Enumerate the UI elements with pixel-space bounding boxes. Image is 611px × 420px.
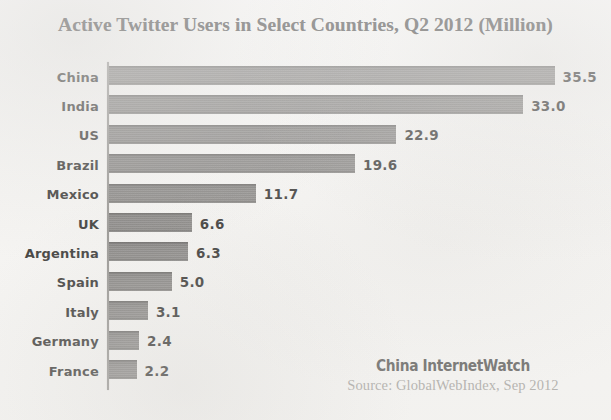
category-label: France [0,363,99,378]
bar-value-label: 19.6 [363,157,398,173]
bar-value-label: 6.6 [200,216,225,232]
bar [109,242,188,261]
category-label: Brazil [0,157,99,172]
bar-row: Germany2.4 [0,327,611,356]
category-label: China [0,69,99,84]
bar-chart-figure: Active Twitter Users in Select Countries… [0,0,611,420]
category-label: Italy [0,304,99,319]
bar-row: Spain5.0 [0,268,611,297]
category-label: Mexico [0,187,99,202]
category-label: Argentina [0,246,99,261]
bar-row: Brazil19.6 [0,150,611,179]
watermark-brand: China InternetWatch [333,356,574,375]
plot-area: China35.5India33.0US22.9Brazil19.6Mexico… [0,62,611,392]
category-label: Germany [0,334,99,349]
bar-row: India33.0 [0,91,611,120]
bar-value-label: 5.0 [180,274,205,290]
bar-value-label: 35.5 [563,69,598,85]
bar [109,184,256,203]
category-label: UK [0,216,99,231]
bar [109,301,148,320]
bar [109,95,523,114]
bar-value-label: 2.4 [147,333,172,349]
watermark-block: China InternetWatch Source: GlobalWebInd… [313,356,593,394]
chart-source-note: Source: GlobalWebIndex, Sep 2012 [313,377,593,394]
bar [109,360,137,379]
bar-value-label: 22.9 [404,127,439,143]
bar-value-label: 6.3 [196,245,221,261]
chart-title: Active Twitter Users in Select Countries… [0,14,611,36]
bar [109,154,355,173]
bar [109,272,172,291]
bar-value-label: 11.7 [264,186,299,202]
bar [109,66,555,85]
bar-row: UK6.6 [0,209,611,238]
bar-row: China35.5 [0,62,611,91]
bar [109,213,192,232]
bar-value-label: 2.2 [145,363,170,379]
bar-row: Italy3.1 [0,297,611,326]
bar-row: US22.9 [0,121,611,150]
bar-row: Argentina6.3 [0,238,611,267]
bar-value-label: 3.1 [156,304,181,320]
bar [109,125,396,144]
category-label: India [0,99,99,114]
bar-value-label: 33.0 [531,98,566,114]
category-label: Spain [0,275,99,290]
bar-row: Mexico11.7 [0,180,611,209]
bar [109,331,139,350]
category-label: US [0,128,99,143]
